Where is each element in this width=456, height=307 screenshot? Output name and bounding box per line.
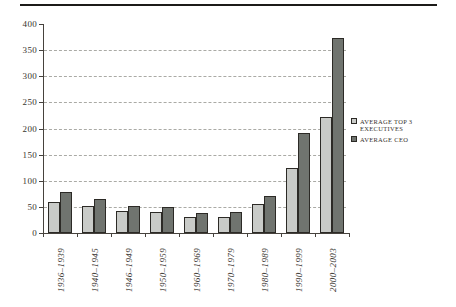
gridline-300 xyxy=(44,76,346,77)
bar-1946-1949-ceo xyxy=(128,206,140,233)
x-category-label-0: 1936–1939 xyxy=(56,248,66,292)
y-tick-label-50: 50 xyxy=(13,202,37,213)
bar-2000-2003-ceo xyxy=(332,38,344,233)
y-tick-150 xyxy=(39,155,43,156)
legend-swatch-average-ceo xyxy=(351,136,357,142)
gridline-250 xyxy=(44,102,346,103)
legend-swatch-top3-executives xyxy=(351,118,357,124)
y-tick-label-350: 350 xyxy=(13,45,37,56)
bar-chart-figure: 0501001502002503003504001936–19391940–19… xyxy=(0,0,456,307)
x-tick-1 xyxy=(77,234,78,237)
x-tick-8 xyxy=(315,234,316,237)
bar-1980-1989-ceo xyxy=(264,196,276,233)
bar-1990-1999-ceo xyxy=(298,133,310,233)
y-tick-400 xyxy=(39,24,43,25)
y-tick-100 xyxy=(39,181,43,182)
legend-item-average-ceo: AVERAGE CEO xyxy=(351,136,456,143)
legend-item-top3-executives: AVERAGE TOP 3 EXECUTIVES xyxy=(351,118,456,132)
bar-1950-1959-top3 xyxy=(150,212,162,233)
x-category-label-6: 1980–1989 xyxy=(260,248,270,292)
x-tick-9 xyxy=(349,234,350,237)
bar-1936-1939-ceo xyxy=(60,192,72,233)
legend-label-top3-executives: AVERAGE TOP 3 EXECUTIVES xyxy=(360,118,456,132)
y-tick-350 xyxy=(39,50,43,51)
y-tick-200 xyxy=(39,129,43,130)
plot-area: 0501001502002503003504001936–19391940–19… xyxy=(0,0,456,307)
x-tick-7 xyxy=(281,234,282,237)
y-axis-line xyxy=(43,24,44,234)
y-tick-250 xyxy=(39,102,43,103)
bar-1940-1945-ceo xyxy=(94,199,106,233)
bar-1980-1989-top3 xyxy=(252,204,264,233)
bar-1946-1949-top3 xyxy=(116,211,128,233)
x-tick-3 xyxy=(145,234,146,237)
x-tick-4 xyxy=(179,234,180,237)
y-tick-label-0: 0 xyxy=(13,228,37,239)
x-tick-2 xyxy=(111,234,112,237)
x-category-label-1: 1940–1945 xyxy=(90,248,100,292)
y-tick-label-400: 400 xyxy=(13,19,37,30)
x-category-label-4: 1960–1969 xyxy=(192,248,202,292)
y-tick-label-100: 100 xyxy=(13,176,37,187)
gridline-350 xyxy=(44,50,346,51)
bar-2000-2003-top3 xyxy=(320,117,332,233)
bar-1970-1979-top3 xyxy=(218,217,230,233)
bar-1970-1979-ceo xyxy=(230,212,242,233)
bar-1960-1969-top3 xyxy=(184,217,196,233)
x-tick-5 xyxy=(213,234,214,237)
x-category-label-7: 1990–1999 xyxy=(294,248,304,292)
legend: AVERAGE TOP 3 EXECUTIVES AVERAGE CEO xyxy=(351,118,456,147)
x-tick-0 xyxy=(43,234,44,237)
y-tick-300 xyxy=(39,76,43,77)
x-category-label-8: 2000–2003 xyxy=(328,248,338,292)
x-category-label-2: 1946–1949 xyxy=(124,248,134,292)
bar-1990-1999-top3 xyxy=(286,168,298,233)
bar-1940-1945-top3 xyxy=(82,206,94,233)
y-tick-label-200: 200 xyxy=(13,124,37,135)
x-tick-6 xyxy=(247,234,248,237)
x-axis-line xyxy=(43,233,350,234)
x-category-label-3: 1950–1959 xyxy=(158,248,168,292)
bar-1950-1959-ceo xyxy=(162,207,174,233)
y-tick-label-250: 250 xyxy=(13,97,37,108)
y-tick-label-300: 300 xyxy=(13,71,37,82)
x-category-label-5: 1970–1979 xyxy=(226,248,236,292)
y-tick-50 xyxy=(39,207,43,208)
legend-label-average-ceo: AVERAGE CEO xyxy=(360,136,408,143)
gridline-200 xyxy=(44,129,346,130)
y-tick-label-150: 150 xyxy=(13,150,37,161)
bar-1936-1939-top3 xyxy=(48,202,60,233)
bar-1960-1969-ceo xyxy=(196,213,208,233)
